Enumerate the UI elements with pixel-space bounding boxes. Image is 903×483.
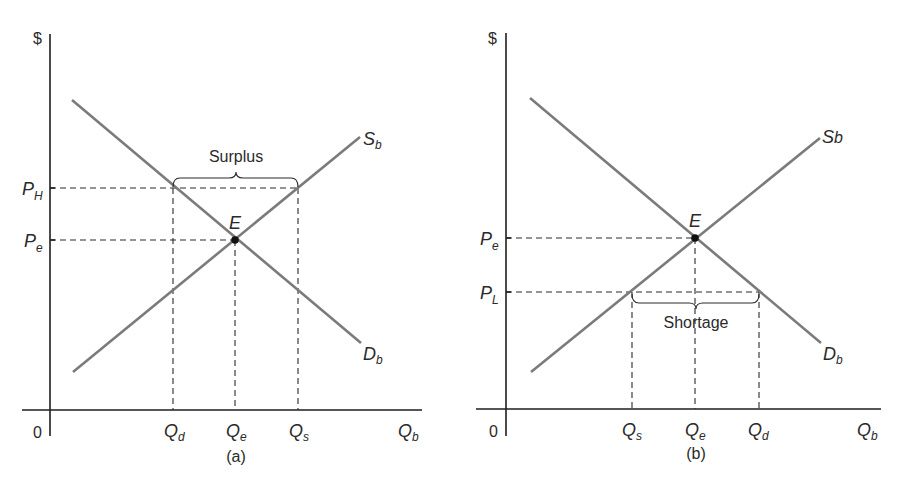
- panel-a-caption: (a): [226, 448, 246, 465]
- panel-a-supply-curve: [73, 137, 360, 372]
- panel-b-supply-label: Sb: [822, 127, 843, 147]
- panel-a-x-axis-label: Qb: [398, 421, 419, 444]
- panel-b-equilibrium-point: [691, 234, 699, 242]
- panel-b-equilibrium-label: E: [689, 211, 702, 231]
- panel-a-qe-label: Qe: [226, 421, 247, 444]
- panel-b-supply-curve: [531, 138, 820, 372]
- panel-a-origin-label: 0: [33, 424, 42, 441]
- panel-b-shortage-label: Shortage: [664, 314, 729, 331]
- panel-b-price-low-label: PL: [480, 283, 499, 307]
- panel-b-price-eq-label: Pe: [480, 229, 499, 253]
- panel-a-qd-label: Qd: [164, 421, 185, 444]
- panel-a-demand-curve: [72, 100, 361, 343]
- panel-a-supply-label: Sb: [363, 129, 382, 152]
- panel-b-qe-label: Qe: [685, 420, 706, 443]
- panel-a-surplus-brace: [173, 172, 298, 187]
- panel-a-equilibrium-point: [231, 236, 239, 244]
- panel-b-caption: (b): [686, 445, 706, 462]
- panel-a-surplus: E Surplus $ 0 PH Pe Qd Qe Qs Qb Sb: [22, 30, 422, 465]
- panel-a-qs-label: Qs: [289, 421, 309, 444]
- panel-b-shortage: E Shortage $ 0 Pe PL Qs Qe Qd Qb Sb: [476, 30, 881, 462]
- panel-a-surplus-label: Surplus: [209, 148, 263, 165]
- panel-b-demand-curve: [530, 98, 821, 343]
- panel-a-demand-label: Db: [363, 344, 383, 367]
- panel-b-x-axis-label: Qb: [857, 420, 878, 443]
- panel-b-qs-label: Qs: [622, 420, 642, 443]
- panel-b-y-axis-label: $: [488, 30, 497, 47]
- supply-demand-figure: E Surplus $ 0 PH Pe Qd Qe Qs Qb Sb: [0, 0, 903, 483]
- panel-b-qd-label: Qd: [748, 420, 769, 443]
- panel-a-price-eq-label: Pe: [24, 231, 43, 255]
- panel-a-equilibrium-label: E: [229, 213, 242, 233]
- panel-a-price-high-label: PH: [22, 179, 43, 203]
- panel-b-demand-label: Db: [823, 344, 843, 367]
- panel-a-y-axis-label: $: [33, 30, 42, 47]
- panel-b-origin-label: 0: [489, 423, 498, 440]
